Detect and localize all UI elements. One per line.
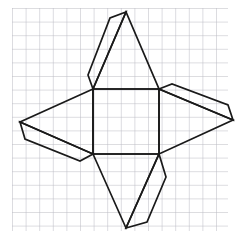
net-diagram-svg — [0, 0, 242, 247]
figure-canvas — [0, 0, 242, 247]
graph-paper-grid — [12, 8, 228, 231]
